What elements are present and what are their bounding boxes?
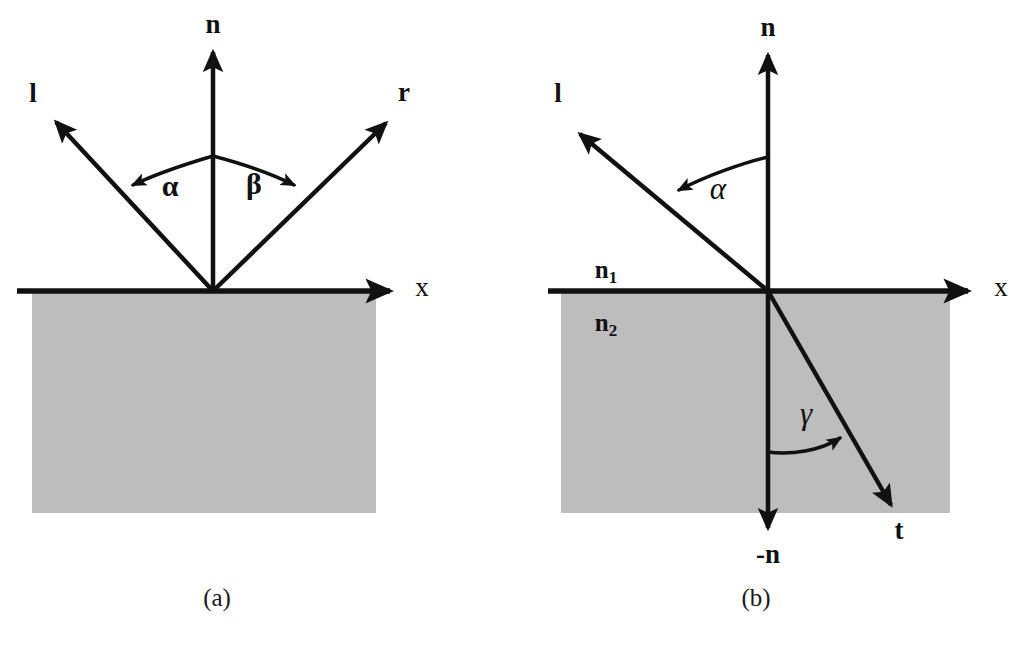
panel-b-x-axis-label: x: [994, 272, 1008, 302]
panel-b-group: x n -n l t α γ n1 n2: [548, 12, 1008, 612]
panel-a-medium-region: [32, 293, 376, 513]
panel-a-incident-label: l: [29, 78, 37, 108]
panel-b-alpha-label: α: [710, 171, 727, 206]
panel-b-transmitted-label: t: [895, 515, 904, 545]
panel-a-beta-label: β: [246, 167, 262, 200]
panel-a-alpha-label: α: [162, 169, 179, 202]
panel-b-gamma-label: γ: [800, 396, 813, 431]
panel-a-x-axis-label: x: [415, 272, 429, 302]
panel-a-reflected-ray: [213, 123, 386, 291]
panel-b-index-n1-subscript: 1: [609, 268, 618, 287]
panel-b-caption: (b): [741, 584, 770, 612]
panel-b-negative-normal-label: -n: [756, 539, 780, 569]
panel-b-normal-label: n: [760, 12, 775, 42]
panel-a-group: x n l r α β (a): [17, 9, 429, 612]
diagram-svg: x n l r α β (a) x: [0, 0, 1035, 648]
panel-a-caption: (a): [203, 584, 231, 612]
panel-b-index-n2-symbol: n: [595, 309, 609, 336]
panel-b-index-n2-subscript: 2: [609, 321, 618, 340]
panel-a-incident-ray: [56, 122, 213, 291]
panel-a-normal-label: n: [205, 9, 220, 39]
panel-b-medium-region: [561, 293, 950, 513]
panel-b-incident-label: l: [554, 78, 562, 108]
panel-b-index-n1-symbol: n: [595, 256, 609, 283]
panel-b-index-n1: n1: [595, 256, 617, 287]
panel-a-reflected-label: r: [398, 77, 410, 107]
figure-container: x n l r α β (a) x: [0, 0, 1035, 648]
